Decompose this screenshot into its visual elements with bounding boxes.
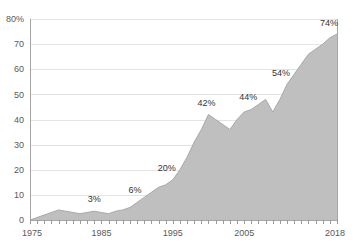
y-tick-label-20: 20 xyxy=(14,165,24,175)
data-label-6pct: 6% xyxy=(129,185,142,195)
area-series xyxy=(30,34,337,220)
y-tick-label-60: 60 xyxy=(14,64,24,74)
data-label-44pct: 44% xyxy=(239,92,257,102)
data-label-54pct: 54% xyxy=(272,68,290,78)
x-tick-label-2005: 2005 xyxy=(234,228,254,238)
y-axis-tick-labels: 01020304050607080% xyxy=(6,14,24,225)
y-tick-label-10: 10 xyxy=(14,190,24,200)
chart-canvas: 01020304050607080% 19751985199520052018 … xyxy=(0,0,355,249)
x-tick-label-2018: 2018 xyxy=(325,228,345,238)
area-fill-path xyxy=(30,34,337,220)
data-label-74pct: 74% xyxy=(320,18,338,28)
x-tick-label-1975: 1975 xyxy=(22,228,42,238)
y-tick-label-40: 40 xyxy=(14,115,24,125)
data-label-20pct: 20% xyxy=(158,163,176,173)
y-tick-label-80: 80% xyxy=(6,14,24,24)
area-chart-figure: 01020304050607080% 19751985199520052018 … xyxy=(0,0,355,249)
data-label-42pct: 42% xyxy=(197,98,215,108)
y-tick-label-50: 50 xyxy=(14,90,24,100)
data-label-3pct: 3% xyxy=(88,194,101,204)
y-tick-label-0: 0 xyxy=(19,215,24,225)
y-tick-label-70: 70 xyxy=(14,39,24,49)
y-tick-label-30: 30 xyxy=(14,140,24,150)
x-axis-tick-labels: 19751985199520052018 xyxy=(22,228,345,238)
x-tick-label-1985: 1985 xyxy=(91,228,111,238)
x-tick-label-1995: 1995 xyxy=(163,228,183,238)
